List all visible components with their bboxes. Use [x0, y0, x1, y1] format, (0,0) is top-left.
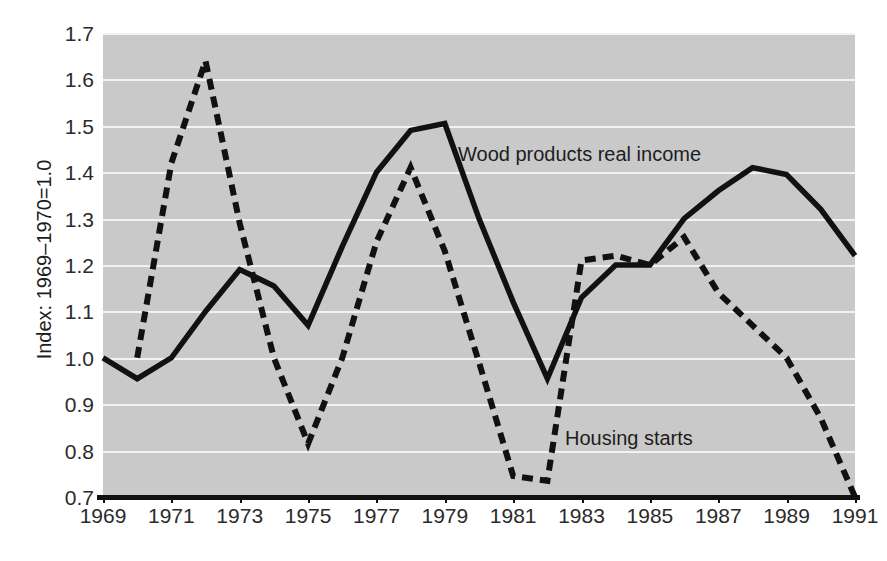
x-axis-tick-mark — [308, 495, 310, 503]
x-axis-tick-mark — [787, 495, 789, 503]
x-axis-tick-mark — [855, 495, 857, 503]
series-line-housing-starts — [137, 61, 855, 497]
x-axis-tick-mark — [582, 495, 584, 503]
x-axis-tick-mark — [376, 495, 378, 503]
x-axis-tick-mark — [171, 495, 173, 503]
series-label-housing-starts: Housing starts — [565, 427, 693, 450]
x-axis-tick-mark — [718, 495, 720, 503]
series-lines — [0, 0, 887, 561]
x-axis-tick-mark — [103, 495, 105, 503]
x-axis-tick-mark — [513, 495, 515, 503]
series-label-wood-products-real-income: Wood products real income — [458, 143, 701, 166]
x-axis-tick-mark — [240, 495, 242, 503]
chart-figure: 1.71.61.51.41.31.21.11.00.90.80.7 Index:… — [0, 0, 887, 561]
x-axis-tick-mark — [650, 495, 652, 503]
x-axis-tick-mark — [445, 495, 447, 503]
